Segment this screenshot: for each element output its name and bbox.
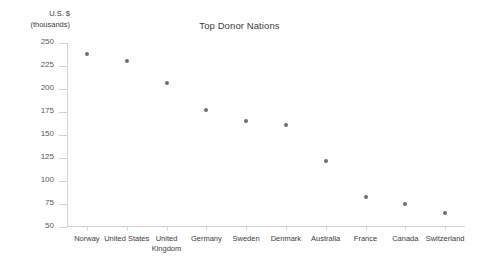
x-axis-tick-label: Switzerland <box>421 234 469 244</box>
data-point <box>364 195 368 199</box>
x-axis-tick-mark <box>167 227 168 231</box>
x-axis-tick-mark <box>366 227 367 231</box>
y-axis-tick: 100 <box>0 181 67 182</box>
y-axis-tick: 50 <box>0 227 67 228</box>
y-axis-tick: 150 <box>0 135 67 136</box>
y-axis-unit-line-1: U.S. $ <box>10 8 70 19</box>
y-axis-tick-label: 150 <box>41 129 54 138</box>
data-point <box>284 123 288 127</box>
data-point <box>324 159 328 163</box>
x-axis-tick-mark <box>445 227 446 231</box>
y-axis-tick: 200 <box>0 89 67 90</box>
y-axis-tick-mark <box>59 89 67 90</box>
y-axis-tick-mark <box>59 181 67 182</box>
x-axis-tick-mark <box>87 227 88 231</box>
y-axis-tick-label: 175 <box>41 106 54 115</box>
y-axis-tick: 125 <box>0 158 67 159</box>
y-axis-tick-label: 250 <box>41 37 54 46</box>
y-axis-tick-mark <box>59 66 67 67</box>
x-axis-tick-mark <box>326 227 327 231</box>
y-axis-tick-label: 50 <box>45 221 54 230</box>
y-axis-tick-mark <box>59 43 67 44</box>
y-axis-tick: 250 <box>0 43 67 44</box>
data-point <box>85 52 89 56</box>
y-axis-tick-mark <box>59 158 67 159</box>
y-axis-tick: 175 <box>0 112 67 113</box>
y-axis-tick-mark <box>59 135 67 136</box>
y-axis-tick-label: 200 <box>41 83 54 92</box>
scatter-chart: U.S. $ (thousands) Top Donor Nations 250… <box>0 0 479 265</box>
y-axis-tick: 75 <box>0 204 67 205</box>
y-axis-tick-label: 125 <box>41 152 54 161</box>
y-axis-tick-mark <box>59 204 67 205</box>
y-axis-tick: 225 <box>0 66 67 67</box>
y-axis-tick-label: 75 <box>45 198 54 207</box>
x-axis-tick-mark <box>286 227 287 231</box>
plot-area <box>67 43 465 227</box>
y-axis-tick-label: 100 <box>41 175 54 184</box>
x-axis-tick-mark <box>246 227 247 231</box>
chart-title: Top Donor Nations <box>0 20 479 31</box>
x-axis-tick-mark <box>206 227 207 231</box>
x-axis-tick-mark <box>127 227 128 231</box>
y-axis-tick-mark <box>59 112 67 113</box>
x-axis-tick-mark <box>405 227 406 231</box>
y-axis-tick-mark <box>59 227 67 228</box>
y-axis-tick-label: 225 <box>41 60 54 69</box>
